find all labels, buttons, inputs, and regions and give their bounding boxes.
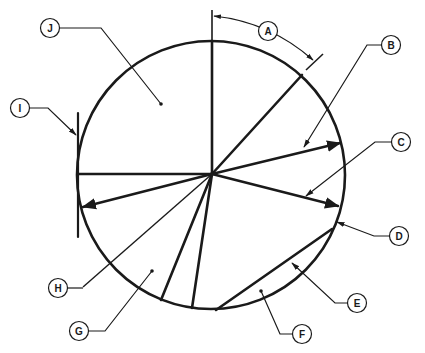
- label-d: D: [390, 227, 409, 246]
- label-e: E: [348, 294, 367, 313]
- svg-text:A: A: [264, 26, 271, 37]
- sector-g-edge-2: [192, 174, 212, 308]
- leader-e: [292, 263, 347, 303]
- circle-parts-diagram: A B C D E F G H I J: [0, 0, 425, 353]
- radius-upper-right: [212, 75, 302, 174]
- leader-j: [60, 28, 161, 104]
- label-a: A: [259, 22, 278, 41]
- svg-text:E: E: [354, 298, 361, 309]
- svg-text:I: I: [19, 103, 22, 114]
- leader-c: [306, 142, 391, 196]
- leader-g: [89, 271, 152, 331]
- chord-e: [216, 229, 332, 310]
- label-i: I: [11, 99, 30, 118]
- leader-i: [29, 108, 76, 135]
- label-j: J: [41, 19, 60, 38]
- radius-arrow-b: [212, 143, 340, 174]
- svg-text:F: F: [299, 329, 305, 340]
- svg-text:H: H: [54, 283, 61, 294]
- svg-text:J: J: [47, 23, 53, 34]
- label-g: G: [70, 322, 89, 341]
- leader-d: [337, 222, 389, 236]
- label-f: F: [293, 325, 312, 344]
- svg-text:C: C: [397, 137, 404, 148]
- center-point: [210, 172, 214, 176]
- label-h: H: [49, 279, 68, 298]
- radius-arrow-c: [212, 174, 338, 206]
- sector-g-edge-1: [161, 174, 212, 300]
- label-c: C: [392, 133, 411, 152]
- svg-text:B: B: [387, 40, 394, 51]
- svg-text:D: D: [395, 231, 402, 242]
- svg-text:G: G: [75, 326, 83, 337]
- label-b: B: [382, 36, 401, 55]
